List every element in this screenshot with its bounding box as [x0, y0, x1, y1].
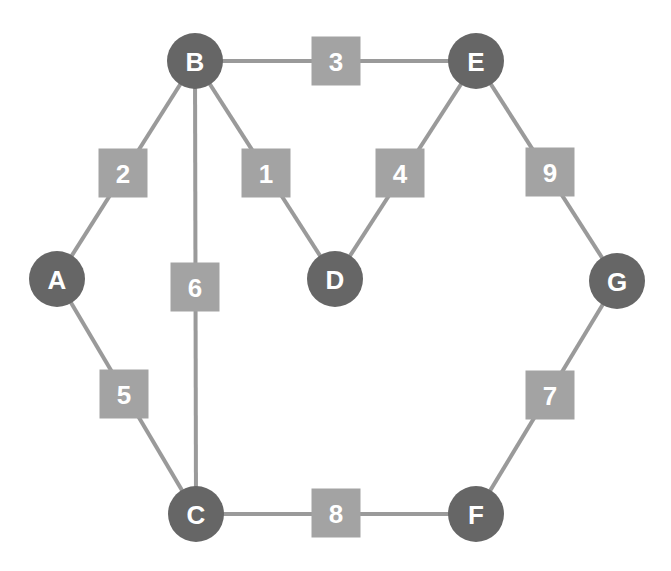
weight-label: 9: [543, 158, 557, 188]
edge-weight-A-C: 5: [100, 370, 149, 419]
weighted-graph-diagram: 231456789 ABCDEFG: [0, 0, 671, 571]
node-label: G: [607, 267, 627, 297]
edge-weight-E-G: 9: [526, 148, 575, 197]
edge-weight-D-E: 4: [376, 149, 425, 198]
node-G: G: [589, 253, 645, 309]
edge-weight-A-B: 2: [99, 149, 148, 198]
node-label: E: [467, 47, 484, 77]
node-label: C: [187, 500, 206, 530]
edge-weight-B-D: 1: [242, 149, 291, 198]
weight-label: 8: [329, 499, 343, 529]
weight-label: 6: [188, 273, 202, 303]
weight-label: 1: [259, 159, 273, 189]
weight-label: 7: [543, 381, 557, 411]
weight-label: 5: [117, 380, 131, 410]
weight-label: 2: [116, 159, 130, 189]
node-C: C: [168, 486, 224, 542]
node-label: A: [48, 265, 67, 295]
edge-weight-B-C: 6: [171, 263, 220, 312]
node-A: A: [29, 251, 85, 307]
node-label: B: [186, 47, 205, 77]
node-F: F: [448, 486, 504, 542]
node-D: D: [307, 251, 363, 307]
weight-label: 4: [393, 159, 408, 189]
node-B: B: [167, 33, 223, 89]
edge-weight-C-F: 8: [312, 489, 361, 538]
nodes-layer: ABCDEFG: [29, 33, 645, 542]
weight-label: 3: [329, 47, 343, 77]
node-label: F: [468, 500, 484, 530]
node-label: D: [326, 265, 345, 295]
edge-weight-B-E: 3: [312, 37, 361, 86]
edge-weight-F-G: 7: [526, 371, 575, 420]
node-E: E: [448, 33, 504, 89]
